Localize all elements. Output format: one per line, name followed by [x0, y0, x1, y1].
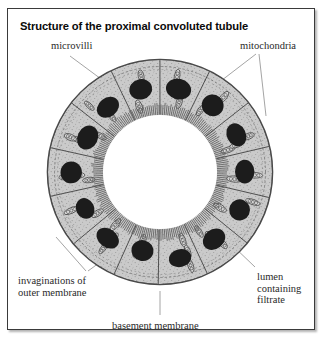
nucleus [60, 161, 82, 183]
nucleus [235, 160, 254, 184]
label-microvilli: microvilli [51, 40, 92, 52]
label-lumen-line3: filtrate [257, 294, 301, 306]
label-mitochondria-text: mitochondria [240, 40, 296, 52]
label-microvilli-text: microvilli [51, 40, 92, 52]
label-invaginations-line1: invaginations of [18, 275, 87, 287]
lumen [103, 115, 217, 229]
label-mitochondria: mitochondria [240, 40, 296, 52]
figure-panel: Structure of the proximal convoluted tub… [7, 8, 315, 330]
label-basement-membrane: basement membrane [112, 320, 199, 332]
label-invaginations-line2: outer membrane [18, 287, 87, 299]
label-lumen: lumen containing filtrate [257, 271, 301, 306]
label-lumen-line1: lumen [257, 271, 301, 283]
label-invaginations: invaginations of outer membrane [18, 275, 87, 298]
leader-line-mitochondria-b [259, 54, 266, 116]
label-basement-membrane-text: basement membrane [112, 320, 199, 332]
label-lumen-line2: containing [257, 283, 301, 295]
